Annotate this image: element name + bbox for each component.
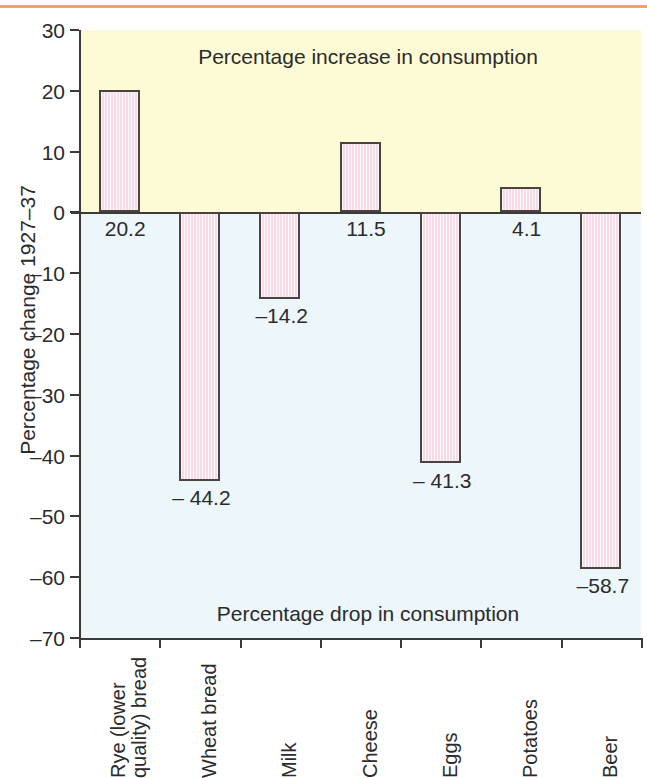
x-axis-line [79, 638, 641, 640]
bar-4 [420, 212, 461, 463]
y-tick--30 [70, 394, 79, 396]
y-tick-20 [70, 90, 79, 92]
bar-5 [500, 187, 541, 212]
category-label-line: Wheat bread [199, 648, 220, 778]
y-tick-label-20: 20 [42, 80, 65, 101]
negative-region-annotation: Percentage drop in consumption [217, 602, 519, 626]
bar-0 [99, 90, 140, 213]
bar-value-label-3: 11.5 [346, 217, 385, 241]
category-label-line: Cheese [360, 648, 381, 778]
bar-3 [340, 142, 381, 212]
category-label-line: Potatoes [520, 648, 541, 778]
negative-region-band [79, 212, 641, 638]
y-tick-label--70: –70 [30, 628, 65, 649]
bar-value-label-6: –58.7 [577, 574, 630, 598]
y-tick--10 [70, 272, 79, 274]
category-label-line: Beer [600, 648, 621, 778]
y-axis-tick-labels: 3020100–10–20–30–40–50–60–70 [0, 0, 79, 776]
y-tick-label--40: –40 [30, 445, 65, 466]
category-label-line: Rye (lower [108, 648, 129, 778]
y-tick--70 [70, 637, 79, 639]
y-tick-label-30: 30 [42, 20, 65, 41]
y-tick--40 [70, 455, 79, 457]
y-tick-label--50: –50 [30, 506, 65, 527]
bar-value-label-0: 20.2 [105, 217, 146, 241]
x-tick-7 [641, 638, 643, 648]
y-tick-label-0: 0 [53, 202, 65, 223]
positive-region-annotation: Percentage increase in consumption [198, 45, 538, 69]
bar-2 [259, 212, 300, 298]
bar-value-label-1: – 44.2 [172, 486, 230, 510]
x-tick-3 [320, 638, 322, 648]
y-tick-label-10: 10 [42, 141, 65, 162]
bar-value-label-2: –14.2 [255, 304, 308, 328]
bar-value-label-5: 4.1 [512, 217, 541, 241]
top-divider-rule [0, 5, 647, 8]
category-label-line: Eggs [440, 648, 461, 778]
bar-6 [580, 212, 621, 569]
y-tick-0 [70, 211, 79, 213]
x-tick-5 [480, 638, 482, 648]
y-tick--60 [70, 576, 79, 578]
x-tick-0 [79, 638, 81, 648]
y-tick-label--10: –10 [30, 263, 65, 284]
y-tick--20 [70, 333, 79, 335]
y-tick-10 [70, 151, 79, 153]
y-tick-30 [70, 29, 79, 31]
y-tick-label--20: –20 [30, 324, 65, 345]
x-tick-1 [159, 638, 161, 648]
category-label-line: Milk [279, 648, 300, 778]
x-tick-4 [400, 638, 402, 648]
x-tick-2 [240, 638, 242, 648]
y-tick--50 [70, 515, 79, 517]
y-axis-line [79, 30, 81, 638]
category-label-line: quality) bread [129, 648, 150, 778]
plot-area: 20.2– 44.2–14.211.5– 41.34.1–58.7 Percen… [79, 30, 641, 638]
bar-value-label-4: – 41.3 [413, 469, 471, 493]
x-tick-6 [561, 638, 563, 648]
y-tick-label--60: –60 [30, 567, 65, 588]
bar-1 [179, 212, 220, 481]
y-tick-label--30: –30 [30, 384, 65, 405]
